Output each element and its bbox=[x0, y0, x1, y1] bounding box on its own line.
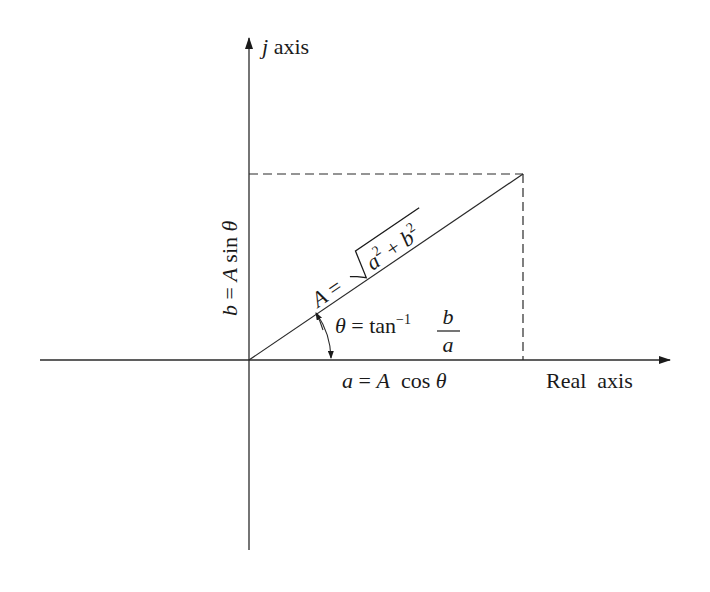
magnitude-label: A = a2 + b2 bbox=[302, 208, 437, 313]
real-axis-label: Real axis bbox=[546, 368, 633, 393]
angle-label: θ = tan−1 b a bbox=[335, 304, 460, 357]
a-component-label: a = A cos θ bbox=[342, 368, 447, 393]
j-axis-label: j axis bbox=[259, 34, 309, 59]
svg-text:a2 + b2: a2 + b2 bbox=[360, 219, 424, 275]
fraction-denominator: a bbox=[443, 332, 454, 357]
fraction-numerator: b bbox=[443, 304, 454, 329]
svg-text:A =: A = bbox=[305, 274, 347, 313]
b-component-label: b = A sin θ bbox=[217, 220, 242, 316]
svg-text:θ = tan−1: θ = tan−1 bbox=[335, 312, 411, 338]
phasor-diagram: j axis Real axis b = A sin θ a = A cos θ… bbox=[0, 0, 710, 592]
